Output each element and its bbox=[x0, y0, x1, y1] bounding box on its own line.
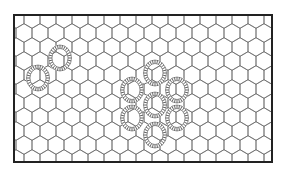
ring-cluster-top bbox=[144, 60, 167, 86]
honeycomb-diagram bbox=[0, 0, 284, 189]
ring-cluster-center bbox=[144, 92, 167, 118]
ring-cluster-bottom bbox=[144, 122, 167, 148]
ring-cluster-lower-left bbox=[121, 105, 144, 131]
ring-cluster-lower-right bbox=[166, 105, 189, 131]
ring-cluster-upper-right bbox=[166, 77, 189, 103]
ring-cluster-upper-left bbox=[121, 77, 144, 103]
ring-left-upper bbox=[49, 45, 72, 71]
